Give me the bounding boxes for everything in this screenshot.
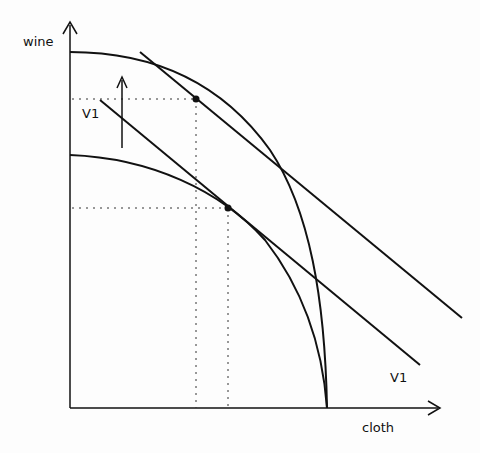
upper-price-line [140,52,462,318]
shift-arrow-icon [117,77,127,148]
dotted-guides [72,99,228,408]
ppf-diagram: wine cloth V1 V1 [0,0,480,453]
upper-tangency-point [193,96,200,103]
v1-line-label: V1 [390,370,407,385]
inner-frontier-curve [70,155,327,408]
shift-label: V1 [82,106,99,121]
y-axis-label: wine [23,34,53,49]
lower-tangency-point [225,205,232,212]
x-axis-label: cloth [362,420,394,435]
lower-price-line-v1 [100,100,420,365]
diagram-canvas [0,0,480,453]
outer-frontier-curve [70,52,327,408]
